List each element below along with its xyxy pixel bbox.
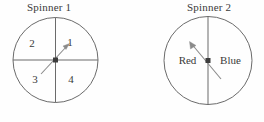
- spinner-1-graphic: [13, 18, 98, 103]
- spinner-figure: Spinner 1 Spinner 2 2 1 3 4 Red Blue: [0, 0, 264, 122]
- spinner-1-sector-label-3: 3: [30, 73, 40, 85]
- spinner-2-sector-label-blue: Blue: [217, 54, 244, 66]
- spinner-1-center-pivot: [53, 58, 58, 63]
- spinner-2-center-pivot: [206, 58, 211, 63]
- spinner-1-title: Spinner 1: [27, 1, 71, 13]
- spinner-2-sector-label-red: Red: [175, 54, 200, 66]
- spinner-1-sector-label-2: 2: [27, 37, 37, 49]
- spinner-2-title: Spinner 2: [187, 1, 231, 13]
- spinner-1-sector-label-4: 4: [66, 73, 76, 85]
- spinner-1-sector-label-1: 1: [65, 36, 75, 48]
